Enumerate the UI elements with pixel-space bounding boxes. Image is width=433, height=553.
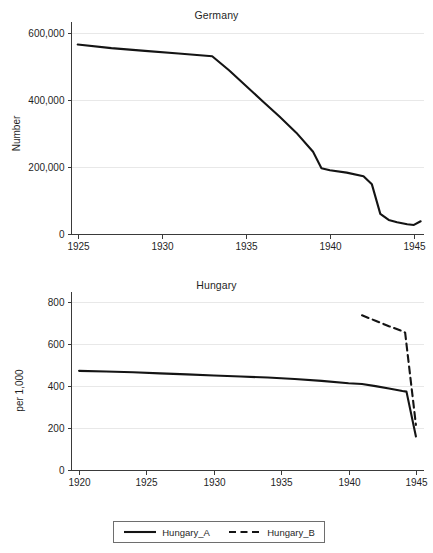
germany-xtick-label: 1945 xyxy=(403,241,426,252)
germany-xtick-label: 1925 xyxy=(67,241,90,252)
hungary-xtick-label: 1930 xyxy=(203,477,226,488)
hungary-xtick-label: 1920 xyxy=(68,477,91,488)
hungary-y-axis-label: per 1,000 xyxy=(14,361,25,421)
solid-line-swatch xyxy=(123,527,157,537)
hungary-ytick-label: 400 xyxy=(48,381,65,392)
germany-ytick-label: 0 xyxy=(59,229,65,240)
panel-germany: Germany Number 0200,000400,000600,000192… xyxy=(0,0,433,268)
germany-plot: 0200,000400,000600,000192519301935194019… xyxy=(0,0,433,268)
figure-two-panel-line-charts: Germany Number 0200,000400,000600,000192… xyxy=(0,0,433,553)
dashed-line-swatch xyxy=(228,527,262,537)
hungary-ytick-label: 0 xyxy=(59,465,65,476)
hungary-plot: 0200400600800192019251930193519401945 xyxy=(0,268,433,488)
germany-ytick-label: 600,000 xyxy=(28,28,65,39)
germany-xtick-label: 1940 xyxy=(319,241,342,252)
germany-y-axis-label: Number xyxy=(11,104,22,164)
hungary-xtick-label: 1945 xyxy=(405,477,428,488)
series-line-germany xyxy=(78,44,421,224)
germany-ytick-label: 200,000 xyxy=(28,162,65,173)
hungary-ytick-label: 800 xyxy=(48,297,65,308)
legend-label-hungary-b: Hungary_B xyxy=(267,527,315,538)
series-line-hungary-a xyxy=(79,371,416,437)
hungary-ytick-label: 600 xyxy=(48,339,65,350)
germany-chart-title: Germany xyxy=(0,9,433,21)
chart-legend: Hungary_A Hungary_B xyxy=(113,521,325,543)
panel-hungary: Hungary per 1,000 0200400600800192019251… xyxy=(0,268,433,553)
legend-entry-hungary-b: Hungary_B xyxy=(228,527,315,538)
germany-xtick-label: 1935 xyxy=(235,241,258,252)
hungary-chart-title: Hungary xyxy=(0,279,433,291)
germany-xtick-label: 1930 xyxy=(151,241,174,252)
series-line-hungary-b xyxy=(362,315,416,425)
legend-label-hungary-a: Hungary_A xyxy=(162,527,210,538)
hungary-xtick-label: 1935 xyxy=(270,477,293,488)
hungary-ytick-label: 200 xyxy=(48,423,65,434)
legend-entry-hungary-a: Hungary_A xyxy=(123,527,210,538)
hungary-xtick-label: 1940 xyxy=(338,477,361,488)
germany-ytick-label: 400,000 xyxy=(28,95,65,106)
hungary-xtick-label: 1925 xyxy=(135,477,158,488)
